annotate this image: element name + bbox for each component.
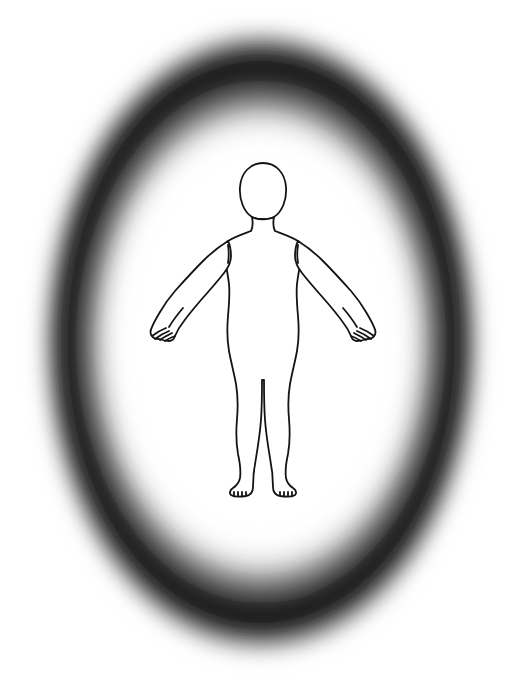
body-diagram-canvas xyxy=(0,0,521,684)
right-arm-shape xyxy=(295,241,376,341)
head-shape xyxy=(240,163,286,219)
left-arm-shape xyxy=(151,241,232,341)
body-group xyxy=(151,163,376,497)
torso-and-legs-shape xyxy=(224,217,303,497)
human-body-svg xyxy=(0,0,521,684)
figure-layer xyxy=(0,0,521,684)
